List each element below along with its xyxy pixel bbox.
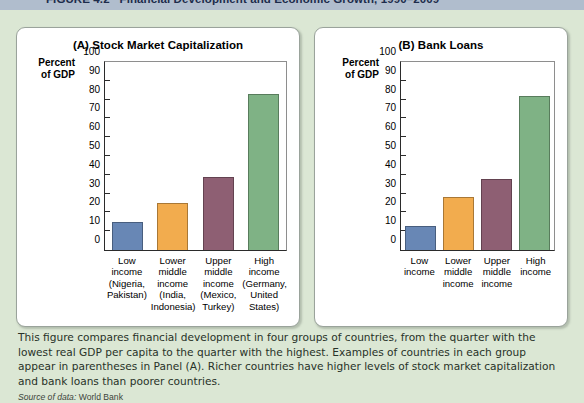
y-tick-label: 80 — [385, 85, 401, 95]
x-axis-label-line: Pakistan) — [105, 289, 149, 300]
y-tick-label: 30 — [89, 179, 105, 189]
panel-a-y-axis-title: Percent of GDP — [23, 57, 75, 80]
y-axis-title-line1: Percent — [327, 57, 379, 69]
bar-slot — [516, 62, 554, 250]
bar-slot — [439, 62, 477, 250]
x-axis-label-line: income — [242, 266, 286, 277]
x-axis-label-line: Lower — [440, 255, 477, 266]
bar-slot — [105, 62, 150, 250]
source-label: Source of data: — [18, 392, 76, 402]
x-axis-label: Highincome(Germany,UnitedStates) — [241, 255, 287, 312]
x-axis-label-line: income — [440, 278, 477, 289]
y-tick-label: 0 — [390, 235, 401, 245]
panel-a-bars — [105, 62, 286, 250]
x-axis-label-line: Low — [401, 255, 438, 266]
bar — [443, 197, 474, 250]
y-tick-label: 70 — [89, 103, 105, 113]
y-tick-label: 60 — [385, 122, 401, 132]
bar — [405, 226, 436, 250]
x-axis-label: Uppermiddleincome — [478, 255, 517, 289]
bar-slot — [241, 62, 286, 250]
y-tick-label: 50 — [89, 141, 105, 151]
panels-row: (A) Stock Market Capitalization Percent … — [0, 10, 584, 328]
x-axis-label-line: Upper — [197, 255, 241, 266]
x-axis-label-line: Lower — [151, 255, 195, 266]
y-tick-label: 40 — [385, 160, 401, 170]
bar-slot — [478, 62, 516, 250]
panel-stock-market-capitalization: (A) Stock Market Capitalization Percent … — [16, 27, 300, 327]
panel-b-bars — [401, 62, 554, 250]
x-axis-label-line: income — [197, 278, 241, 289]
x-axis-label: Lowermiddleincome(India,Indonesia) — [150, 255, 196, 312]
bar-slot — [401, 62, 439, 250]
x-axis-label-line: income — [105, 266, 149, 277]
bar-slot — [196, 62, 241, 250]
x-axis-label-line: High — [242, 255, 286, 266]
x-axis-label: Highincome — [516, 255, 555, 278]
source-value: World Bank — [79, 392, 123, 402]
x-axis-label-line: Turkey) — [197, 301, 241, 312]
y-tick-label: 80 — [89, 85, 105, 95]
panel-b-y-axis-title: Percent of GDP — [327, 57, 379, 80]
x-axis-label-line: (India, — [151, 289, 195, 300]
y-axis-title-line2: of GDP — [327, 69, 379, 81]
x-axis-label-line: middle — [197, 266, 241, 277]
x-axis-label: Uppermiddleincome(Mexico,Turkey) — [196, 255, 242, 312]
panel-b-x-labels: LowincomeLowermiddleincomeUppermiddleinc… — [400, 255, 555, 289]
figure-title-text: FIGURE 4.2 Financial Development and Eco… — [46, 0, 439, 5]
figure-number: FIGURE 4.2 — [46, 0, 110, 5]
x-axis-label-line: High — [517, 255, 554, 266]
y-tick-label: 30 — [385, 179, 401, 189]
x-axis-label-line: middle — [151, 266, 195, 277]
panel-b-plot-area: 1009080706050403020100 — [400, 61, 555, 251]
y-axis-title-line2: of GDP — [23, 69, 75, 81]
y-tick-label: 20 — [385, 197, 401, 207]
y-tick-label: 100 — [83, 47, 105, 57]
bar — [203, 177, 234, 250]
bar — [481, 179, 512, 250]
x-axis-label-line: income — [401, 266, 438, 277]
bar — [248, 94, 279, 250]
panel-a-chart: Percent of GDP 1009080706050403020100 Lo… — [17, 57, 299, 315]
bar — [157, 203, 188, 250]
y-tick-label: 20 — [89, 197, 105, 207]
y-tick-label: 90 — [89, 66, 105, 76]
caption-text: This figure compares financial developme… — [18, 330, 566, 388]
x-axis-label-line: (Mexico, — [197, 289, 241, 300]
y-tick-label: 70 — [385, 103, 401, 113]
y-tick-label: 60 — [89, 122, 105, 132]
figure-caption: This figure compares financial developme… — [0, 330, 584, 402]
y-tick-label: 10 — [385, 216, 401, 226]
y-tick-label: 90 — [385, 66, 401, 76]
x-axis-label-line: Indonesia) — [151, 301, 195, 312]
x-axis-label-line: (Germany, — [242, 278, 286, 289]
bar-slot — [150, 62, 195, 250]
x-axis-label-line: income — [479, 278, 516, 289]
bar — [519, 96, 550, 250]
x-axis-label-line: United — [242, 289, 286, 300]
y-tick-label: 100 — [379, 47, 401, 57]
bar — [112, 222, 143, 250]
panel-a-title: (A) Stock Market Capitalization — [17, 28, 299, 51]
y-tick-label: 10 — [89, 216, 105, 226]
x-axis-label-line: income — [151, 278, 195, 289]
panel-b-chart: Percent of GDP 1009080706050403020100 Lo… — [315, 57, 567, 315]
figure-container: FIGURE 4.2 Financial Development and Eco… — [0, 0, 584, 403]
y-tick-label: 0 — [94, 235, 105, 245]
y-axis-title-line1: Percent — [23, 57, 75, 69]
x-axis-label-line: Low — [105, 255, 149, 266]
y-tick-label: 50 — [385, 141, 401, 151]
x-axis-label-line: middle — [440, 266, 477, 277]
caption-source: Source of data: World Bank — [18, 392, 566, 402]
y-tick-label: 40 — [89, 160, 105, 170]
x-axis-label-line: middle — [479, 266, 516, 277]
panel-bank-loans: (B) Bank Loans Percent of GDP 1009080706… — [314, 27, 568, 327]
figure-title-band: FIGURE 4.2 Financial Development and Eco… — [0, 0, 584, 10]
x-axis-label: Lowermiddleincome — [439, 255, 478, 289]
panel-a-x-labels: Lowincome(Nigeria,Pakistan)Lowermiddlein… — [104, 255, 287, 312]
x-axis-label-line: Upper — [479, 255, 516, 266]
figure-headline: Financial Development and Economic Growt… — [120, 0, 440, 5]
panel-a-plot-area: 1009080706050403020100 — [104, 61, 287, 251]
x-axis-label-line: (Nigeria, — [105, 278, 149, 289]
x-axis-label-line: income — [517, 266, 554, 277]
